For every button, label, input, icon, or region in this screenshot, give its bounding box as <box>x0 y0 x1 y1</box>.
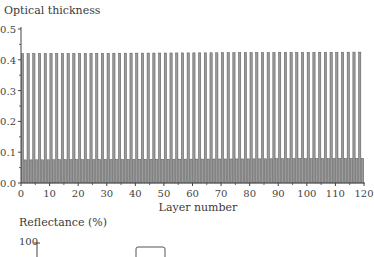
layer-bar <box>64 160 66 183</box>
layer-bar <box>264 159 266 183</box>
layer-bar <box>161 159 163 183</box>
reflectance-chart-title: Reflectance (%) <box>19 216 107 229</box>
x-tick-label: 110 <box>326 188 345 199</box>
layer-bar <box>236 159 238 183</box>
layer-bar <box>224 159 226 183</box>
layer-bar <box>336 52 338 183</box>
layer-bar <box>113 53 115 183</box>
layer-bar <box>101 53 103 183</box>
layer-bar <box>27 54 29 183</box>
x-tick-label: 70 <box>215 188 228 199</box>
layer-bar <box>104 160 106 183</box>
layer-bar <box>67 53 69 183</box>
layer-bar <box>181 53 183 183</box>
layer-bar <box>279 52 281 183</box>
x-tick-label: 120 <box>354 188 373 199</box>
layer-bar <box>330 52 332 183</box>
layer-bar <box>110 159 112 183</box>
layer-bar <box>118 53 120 183</box>
x-tick-label: 0 <box>18 188 24 199</box>
layer-bar <box>287 159 289 183</box>
layer-bar <box>199 53 201 183</box>
reflectance-y-tick-100: 100 <box>19 236 38 247</box>
layer-bar <box>53 160 55 183</box>
x-tick-label: 80 <box>243 188 256 199</box>
layer-bar <box>261 53 263 183</box>
layer-bar <box>167 159 169 183</box>
y-tick-label: 0.0 <box>0 178 16 189</box>
layer-bar <box>78 53 80 183</box>
layer-bar <box>136 53 138 183</box>
y-tick-label: 0.5 <box>0 24 16 35</box>
layer-bar <box>41 160 43 183</box>
layer-bar <box>133 159 135 183</box>
layer-bar <box>216 53 218 183</box>
layer-bar <box>87 160 89 183</box>
layer-bar <box>93 160 95 183</box>
bars <box>21 52 363 183</box>
layer-bar <box>164 53 166 183</box>
layer-bar <box>350 158 352 183</box>
layer-bar <box>310 159 312 183</box>
layer-bar <box>219 159 221 183</box>
x-tick-label: 20 <box>72 188 85 199</box>
layer-bar <box>307 52 309 183</box>
layer-bar <box>273 53 275 183</box>
layer-bar <box>73 53 75 183</box>
layer-bar <box>239 53 241 183</box>
layer-bar <box>36 160 38 183</box>
layer-bar <box>281 159 283 183</box>
layer-bar <box>56 53 58 183</box>
layer-bar <box>33 54 35 183</box>
layer-bar <box>290 52 292 183</box>
layer-bar <box>107 53 109 183</box>
layer-bar <box>353 52 355 183</box>
layer-bar <box>141 53 143 183</box>
layer-bar <box>144 159 146 183</box>
layer-bar <box>341 52 343 183</box>
layer-bar <box>30 160 32 183</box>
layer-bar <box>70 160 72 183</box>
layer-bar <box>116 159 118 183</box>
layer-bar <box>316 159 318 183</box>
layer-bar <box>90 53 92 183</box>
layer-bar <box>147 53 149 183</box>
layer-bar <box>173 159 175 183</box>
y-tick-label: 0.2 <box>0 116 16 127</box>
layer-bar <box>47 160 49 183</box>
layer-bar <box>213 159 215 183</box>
x-tick-label: 60 <box>186 188 199 199</box>
layer-bar <box>187 53 189 183</box>
x-tick-label: 30 <box>100 188 113 199</box>
layer-bar <box>98 160 100 183</box>
layer-bar <box>267 53 269 183</box>
layer-bar <box>21 54 23 183</box>
layer-bar <box>201 159 203 183</box>
layer-bar <box>153 53 155 183</box>
layer-bar <box>127 159 129 183</box>
layer-bar <box>284 52 286 183</box>
layer-bar <box>244 53 246 183</box>
y-tick-label: 0.4 <box>0 55 16 66</box>
layer-bar <box>204 53 206 183</box>
layer-bar <box>76 160 78 183</box>
layer-bar <box>196 159 198 183</box>
layer-bar <box>156 159 158 183</box>
layer-bar <box>333 158 335 183</box>
y-tick-label: 0.1 <box>0 147 16 158</box>
layer-bar <box>301 52 303 183</box>
layer-bar <box>233 53 235 183</box>
layer-bar <box>321 159 323 183</box>
layer-bar <box>193 53 195 183</box>
x-tick-label: 10 <box>43 188 56 199</box>
layer-bar <box>190 159 192 183</box>
x-axis-title: Layer number <box>159 201 238 214</box>
layer-bar <box>24 160 26 183</box>
layer-bar <box>81 160 83 183</box>
layer-bar <box>361 158 363 183</box>
layer-bar <box>84 53 86 183</box>
layer-bar <box>313 52 315 183</box>
layer-bar <box>250 53 252 183</box>
layer-bar <box>221 53 223 183</box>
layer-bar <box>170 53 172 183</box>
